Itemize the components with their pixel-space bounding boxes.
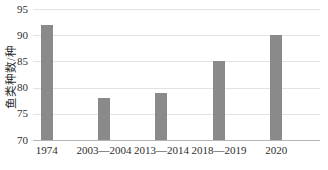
x-axis-line [33, 140, 320, 141]
bar-slot [133, 9, 190, 140]
bar-chart-figure: 鱼类种数/种 707580859095 19742003—20042013—20… [0, 0, 328, 170]
bar-2003—2004 [98, 98, 110, 140]
bar-slot [190, 9, 247, 140]
bar-1974 [41, 25, 53, 140]
x-tick-label-2013—2014: 2013—2014 [133, 144, 190, 157]
bar-slot [248, 9, 305, 140]
x-axis-labels: 19742003—20042013—20142018—20192020 [18, 144, 305, 158]
bar-2020 [270, 35, 282, 140]
x-tick-label-2020: 2020 [248, 144, 305, 157]
bar-slot [18, 9, 75, 140]
x-tick-label-2003—2004: 2003—2004 [75, 144, 132, 157]
x-tick-label-2018—2019: 2018—2019 [190, 144, 247, 157]
bars-container [18, 9, 305, 140]
bar-2018—2019 [213, 61, 225, 140]
x-tick-label-1974: 1974 [18, 144, 75, 157]
bar-slot [75, 9, 132, 140]
bar-2013—2014 [155, 93, 167, 140]
